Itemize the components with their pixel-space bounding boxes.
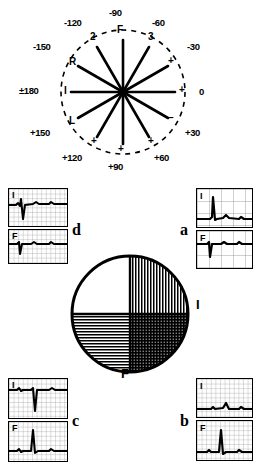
degree-label--30: -30 [187, 41, 200, 52]
quadrant-circle-svg [69, 253, 191, 377]
ecg-strip-d-lead-F: F [8, 229, 68, 264]
svg-text:F: F [12, 231, 18, 241]
polarity-mark-plus90-plus: + [118, 143, 124, 154]
polarity-mark-0-plus: + [179, 84, 185, 95]
degree-label-pm180: ±180 [19, 85, 38, 96]
qrs-axis-quadrant-circle [69, 253, 191, 377]
degree-label-+90: +90 [108, 161, 123, 172]
svg-text:I: I [200, 191, 203, 201]
pm180-value: 180 [24, 85, 39, 96]
polarity-mark-plus60-plus: + [148, 135, 154, 146]
ecg-panel-letter-a: a [180, 221, 188, 239]
degree-label-+120: +120 [62, 152, 82, 163]
axis-label-2: 2 [90, 31, 96, 42]
quadrant-upper-left [69, 253, 130, 314]
ecg-strip-a-lead-F: F [196, 230, 253, 269]
quadrant-circle-label-F: F [121, 366, 129, 381]
ecg-panel-letter-d: d [72, 221, 81, 239]
ecg-strip-c-lead-F: F [8, 421, 68, 462]
degree-label--60: -60 [152, 17, 165, 28]
ecg-strip-a-lead-I: I [196, 188, 253, 228]
axis-label-L: L [69, 115, 75, 126]
figure-root: -90 -120 -60 -150 -30 0 +150 +30 +120 +6… [0, 0, 259, 471]
ecg-strip-c-lead-I: I [8, 378, 68, 419]
svg-text:F: F [12, 423, 18, 433]
strip-lead-label: I [12, 190, 15, 200]
quadrant-lower-right [130, 314, 191, 377]
degree-label--150: -150 [33, 41, 50, 52]
degree-label--120: -120 [64, 17, 81, 28]
polarity-mark-minus30-plus: + [168, 55, 174, 66]
diagram-center-dot [119, 88, 128, 97]
hexaxial-reference-diagram: -90 -120 -60 -150 -30 0 +150 +30 +120 +6… [0, 0, 259, 182]
axis-label-F: F [117, 24, 123, 35]
axis-label-R: R [69, 56, 76, 67]
degree-label-0: 0 [199, 86, 204, 97]
ecg-panel-c: I F [8, 378, 68, 462]
degree-label-+150: +150 [30, 127, 50, 138]
svg-text:F: F [200, 423, 206, 433]
quadrant-upper-right [130, 253, 191, 314]
ecg-panel-d: I F [8, 188, 68, 264]
polarity-mark-plus30-minus: – [168, 112, 174, 123]
polarity-mark-plus120-plus: + [91, 135, 97, 146]
svg-text:I: I [12, 380, 15, 390]
axis-label-I: I [64, 85, 67, 96]
hexaxial-svg [0, 0, 259, 182]
ecg-strip-b-lead-F: F [196, 420, 253, 461]
axis-label-3: 3 [148, 31, 154, 42]
plus-minus-glyph: ± [19, 85, 24, 96]
ecg-panel-a: I F [196, 188, 253, 269]
quadrant-circle-label-I: I [196, 297, 200, 312]
degree-label-+60: +60 [154, 152, 169, 163]
degree-label--90: -90 [109, 7, 122, 18]
svg-text:F: F [200, 233, 206, 243]
degree-label-+30: +30 [185, 127, 200, 138]
svg-text:I: I [200, 381, 203, 391]
ecg-panel-b: I F [196, 378, 253, 461]
ecg-panel-letter-b: b [180, 412, 189, 430]
ecg-panel-letter-c: c [72, 412, 79, 430]
ecg-strip-d-lead-I: I [8, 188, 68, 227]
ecg-strip-b-lead-I: I [196, 378, 253, 418]
